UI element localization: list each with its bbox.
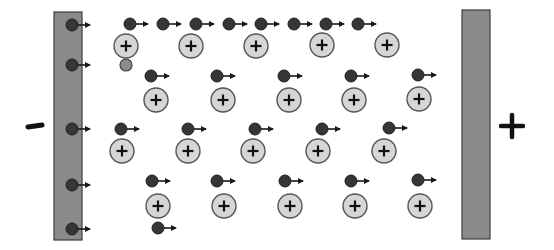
conductor-diagram xyxy=(0,0,554,250)
positive-ion xyxy=(144,88,168,112)
positive-ion xyxy=(146,194,170,218)
diagram-canvas xyxy=(0,0,554,250)
free-electron xyxy=(182,123,206,135)
free-electron xyxy=(412,174,436,186)
positive-ion xyxy=(241,139,265,163)
positive-ion xyxy=(407,87,431,111)
positive-ion xyxy=(372,139,396,163)
free-electron xyxy=(115,123,139,135)
neutral-particle xyxy=(120,59,132,71)
free-electron xyxy=(190,18,214,30)
positive-ion xyxy=(343,194,367,218)
free-electron xyxy=(249,123,273,135)
positive-ion xyxy=(306,139,330,163)
free-electron xyxy=(278,70,302,82)
positive-ion xyxy=(176,139,200,163)
free-electron xyxy=(211,70,235,82)
free-electron xyxy=(279,175,303,187)
free-electron xyxy=(146,175,170,187)
free-electron xyxy=(223,18,247,30)
positive-ion xyxy=(114,34,138,58)
terminal-signs xyxy=(28,115,523,137)
free-electron xyxy=(383,122,407,134)
free-electron xyxy=(152,222,176,234)
positive-ion xyxy=(211,88,235,112)
neutral-particles xyxy=(120,59,132,71)
free-electron xyxy=(352,18,376,30)
free-electron xyxy=(124,18,148,30)
free-electron xyxy=(316,123,340,135)
free-electron xyxy=(145,70,169,82)
free-electron xyxy=(345,70,369,82)
positive-ion xyxy=(342,88,366,112)
positive-ion xyxy=(375,33,399,57)
free-electron xyxy=(157,18,181,30)
free-electron xyxy=(288,18,312,30)
free-electron xyxy=(255,18,279,30)
positive-ion xyxy=(277,88,301,112)
minus-sign-icon xyxy=(28,125,42,127)
positive-ion xyxy=(310,33,334,57)
positive-ion xyxy=(408,194,432,218)
plus-sign-icon xyxy=(501,115,523,137)
positive-ion xyxy=(212,194,236,218)
positive-ion xyxy=(110,139,134,163)
free-electron xyxy=(345,175,369,187)
free-electron xyxy=(211,175,235,187)
positive-plate xyxy=(462,10,490,239)
positive-ion xyxy=(278,194,302,218)
positive-ion xyxy=(244,34,268,58)
free-electron xyxy=(412,69,436,81)
free-electron xyxy=(320,18,344,30)
positive-ion xyxy=(179,34,203,58)
